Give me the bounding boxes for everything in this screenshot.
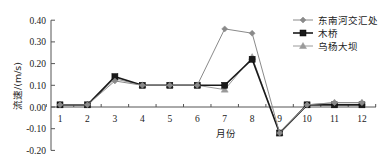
y-tick-label: -0.20 bbox=[26, 146, 46, 156]
x-tick-label: 12 bbox=[357, 114, 367, 124]
series-3 bbox=[57, 54, 366, 136]
x-tick-label: 6 bbox=[195, 114, 200, 124]
legend-item: 乌杨大坝 bbox=[293, 41, 358, 52]
y-tick-label: 0.40 bbox=[29, 16, 46, 26]
x-tick-label: 11 bbox=[330, 114, 339, 124]
line-chart: 0.400.300.200.100.00-0.10-0.20 123456789… bbox=[0, 0, 390, 162]
legend-item: 木桥 bbox=[293, 28, 338, 39]
legend-label: 乌杨大坝 bbox=[318, 41, 358, 52]
legend: 东南河交汇处木桥乌杨大坝 bbox=[293, 15, 378, 52]
y-tick-label: 0.10 bbox=[29, 81, 46, 91]
legend-label: 木桥 bbox=[318, 28, 338, 39]
x-tick-label: 5 bbox=[167, 114, 172, 124]
legend-label: 东南河交汇处 bbox=[318, 15, 378, 26]
y-tick-label: 0.20 bbox=[29, 59, 46, 69]
y-axis-title: 流速/(m/s) bbox=[12, 62, 23, 110]
y-tick-label: 0.00 bbox=[29, 103, 46, 113]
x-axis-title: 月份 bbox=[216, 128, 236, 139]
x-tick-label: 9 bbox=[277, 114, 282, 124]
x-tick-label: 1 bbox=[58, 114, 63, 124]
y-axis: 0.400.300.200.100.00-0.10-0.20 bbox=[26, 16, 55, 156]
x-axis: 123456789101112 bbox=[46, 104, 376, 124]
x-tick-label: 4 bbox=[140, 114, 145, 124]
y-tick-label: -0.10 bbox=[26, 124, 46, 134]
legend-item: 东南河交汇处 bbox=[293, 15, 378, 26]
series-2 bbox=[57, 56, 365, 136]
x-tick-label: 8 bbox=[250, 114, 255, 124]
x-tick-label: 2 bbox=[85, 114, 90, 124]
x-tick-label: 3 bbox=[113, 114, 118, 124]
x-tick-label: 10 bbox=[302, 114, 312, 124]
x-tick-label: 7 bbox=[222, 114, 227, 124]
y-tick-label: 0.30 bbox=[29, 37, 46, 47]
